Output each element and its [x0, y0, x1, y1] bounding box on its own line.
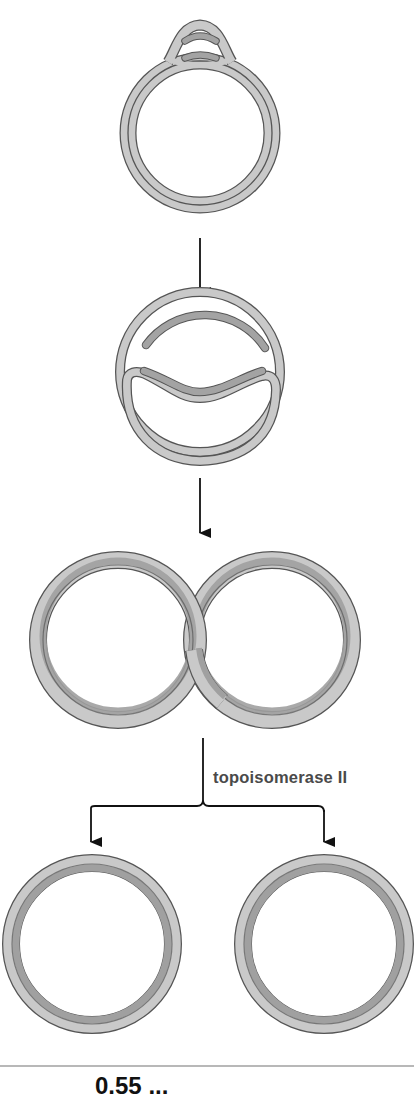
bottom-divider	[0, 1065, 414, 1067]
replication-bubble-figure	[128, 25, 272, 205]
topoisomerase-brace	[91, 738, 324, 842]
catenane-left-circle	[38, 560, 198, 720]
daughter-circle-left	[11, 863, 173, 1025]
truncated-caption: 0.55 ...	[95, 1072, 168, 1098]
catenane-figure	[38, 560, 352, 720]
daughter-circle-right	[243, 863, 405, 1025]
replication-progress-figure	[120, 292, 280, 461]
topoisomerase-label: topoisomerase II	[213, 768, 347, 787]
separated-circles-figure	[11, 863, 405, 1025]
